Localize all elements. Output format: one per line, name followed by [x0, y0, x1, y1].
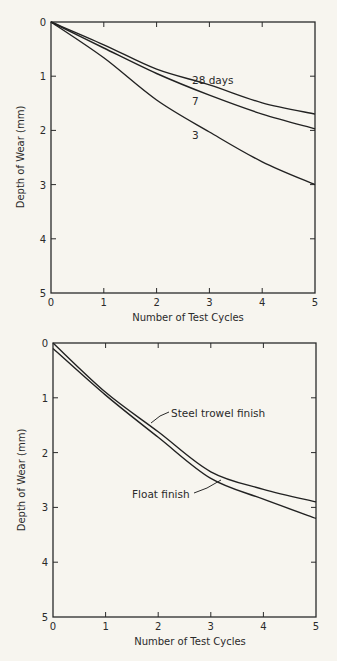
series-label-7-days: 7 [192, 95, 199, 107]
series-label-3-days: 3 [192, 129, 199, 141]
y-tick-label: 5 [42, 612, 48, 623]
x-axis-label: Number of Test Cycles [134, 636, 246, 647]
y-tick-label: 1 [42, 393, 48, 404]
x-tick-label: 2 [155, 621, 161, 632]
series-label-float-finish: Float finish [132, 488, 190, 500]
tick-labels: 012345012345 [42, 338, 320, 632]
x-tick-label: 1 [102, 621, 108, 632]
y-tick-label: 2 [40, 125, 46, 136]
series-curve-3-days [51, 22, 315, 185]
x-tick-label: 2 [153, 297, 159, 308]
y-tick-label: 3 [42, 502, 48, 513]
axis-ticks [51, 22, 315, 293]
data-curves [51, 22, 315, 185]
chart-bottom-wear-by-finish: 012345012345 Steel trowel finish Float f… [16, 338, 319, 647]
y-tick-label: 3 [40, 180, 46, 191]
x-tick-label: 0 [50, 621, 56, 632]
plot-frame [51, 22, 315, 293]
chart-top-wear-by-age: 012345012345 28 days 7 3 Number of Test … [15, 17, 318, 323]
x-tick-label: 0 [48, 297, 54, 308]
y-tick-label: 1 [40, 71, 46, 82]
y-tick-label: 0 [40, 17, 46, 28]
x-tick-label: 3 [206, 297, 212, 308]
figure: 012345012345 28 days 7 3 Number of Test … [0, 0, 337, 661]
x-tick-label: 4 [260, 621, 266, 632]
x-tick-label: 5 [313, 621, 319, 632]
series-label-steel-trowel: Steel trowel finish [171, 407, 265, 419]
y-tick-label: 2 [42, 448, 48, 459]
x-axis-label: Number of Test Cycles [132, 312, 244, 323]
series-label-28-days: 28 days [192, 74, 233, 86]
x-tick-label: 5 [312, 297, 318, 308]
series-curve-steel-trowel-finish [53, 343, 316, 502]
float-finish-leader-line [194, 480, 221, 493]
x-tick-label: 4 [259, 297, 265, 308]
tick-labels: 012345012345 [40, 17, 319, 308]
series-curve-7-days [51, 22, 315, 129]
y-tick-label: 0 [42, 338, 48, 349]
y-tick-label: 4 [40, 234, 46, 245]
steel-trowel-leader-line [151, 412, 169, 423]
x-tick-label: 3 [208, 621, 214, 632]
y-tick-label: 4 [42, 557, 48, 568]
y-axis-label: Depth of Wear (mm) [15, 106, 26, 209]
y-tick-label: 5 [40, 288, 46, 299]
series-curve-28-days [51, 22, 315, 114]
y-axis-label: Depth of Wear (mm) [16, 429, 27, 532]
x-tick-label: 1 [101, 297, 107, 308]
